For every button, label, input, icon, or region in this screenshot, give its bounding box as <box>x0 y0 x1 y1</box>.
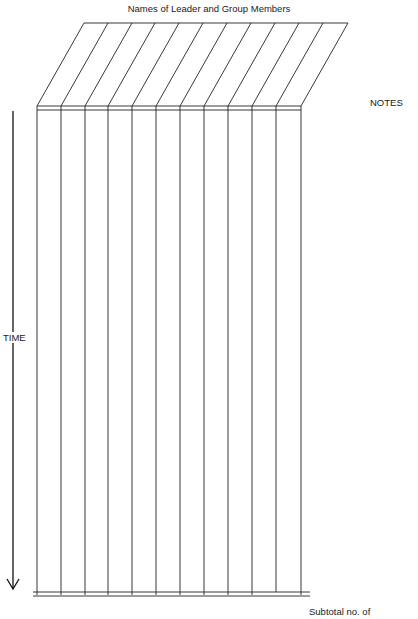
member-columns <box>37 106 301 595</box>
name-header-cells <box>37 23 348 106</box>
member-grid <box>0 0 418 619</box>
time-arrow-icon <box>7 111 19 589</box>
time-label: TIME <box>2 332 27 343</box>
